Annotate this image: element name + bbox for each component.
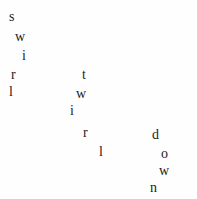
poem-letter: r	[83, 126, 88, 140]
poem-letter: t	[82, 68, 86, 82]
poem-letter: i	[70, 104, 74, 118]
concrete-poem-canvas: swirltwirldown	[0, 0, 197, 199]
poem-letter: o	[161, 147, 168, 161]
poem-letter: l	[9, 85, 13, 99]
poem-letter: n	[150, 181, 157, 195]
poem-letter: i	[22, 49, 26, 63]
poem-letter: w	[15, 30, 25, 44]
poem-letter: s	[9, 10, 14, 24]
poem-letter: w	[76, 87, 86, 101]
poem-letter: l	[99, 145, 103, 159]
poem-letter: d	[152, 128, 159, 142]
poem-letter: r	[11, 68, 16, 82]
poem-letter: w	[159, 164, 169, 178]
